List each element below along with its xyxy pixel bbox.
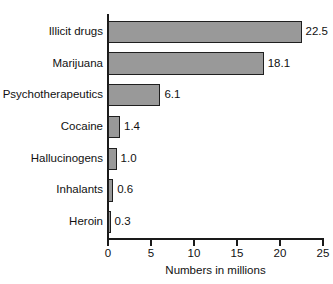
x-tick-label: 10 <box>188 248 201 260</box>
category-label: Hallucinogens <box>31 153 103 165</box>
bar-value-label: 0.3 <box>115 216 131 228</box>
x-tick-label: 5 <box>148 248 154 260</box>
x-tick-mark <box>150 240 152 246</box>
bar-row: 1.0 <box>108 148 323 170</box>
bar-value-label: 6.1 <box>164 90 180 102</box>
x-tick-label: 20 <box>274 248 287 260</box>
category-label: Inhalants <box>56 185 103 197</box>
bar-value-label: 22.5 <box>306 26 328 38</box>
bar-value-label: 1.4 <box>124 121 140 133</box>
bar <box>108 84 160 106</box>
bar-row: 18.1 <box>108 52 323 74</box>
bar-value-label: 18.1 <box>268 58 290 70</box>
bar-chart: Illicit drugsMarijuanaPsychotherapeutics… <box>0 0 333 284</box>
bar <box>108 148 117 170</box>
x-tick-label: 15 <box>231 248 244 260</box>
category-label: Psychotherapeutics <box>3 90 103 102</box>
bar <box>108 179 113 201</box>
bar-row: 0.6 <box>108 179 323 201</box>
bar <box>108 116 120 138</box>
category-label: Marijuana <box>53 58 104 70</box>
plot-area: 22.518.16.11.41.00.60.3 <box>108 16 323 238</box>
bar-row: 6.1 <box>108 84 323 106</box>
x-tick-mark <box>107 240 109 246</box>
x-tick-mark <box>279 240 281 246</box>
x-tick-mark <box>236 240 238 246</box>
bar <box>108 211 111 233</box>
category-axis-labels: Illicit drugsMarijuanaPsychotherapeutics… <box>0 16 103 238</box>
category-label: Illicit drugs <box>49 26 103 38</box>
bar-row: 22.5 <box>108 21 323 43</box>
category-label: Heroin <box>69 216 103 228</box>
x-axis-title: Numbers in millions <box>108 265 323 277</box>
bar <box>108 21 302 43</box>
bar-value-label: 1.0 <box>121 153 137 165</box>
category-label: Cocaine <box>61 121 103 133</box>
bar-row: 1.4 <box>108 116 323 138</box>
bar-row: 0.3 <box>108 211 323 233</box>
x-tick-label: 0 <box>105 248 111 260</box>
bar <box>108 52 264 74</box>
x-axis-line <box>107 238 324 240</box>
x-tick-mark <box>322 240 324 246</box>
x-tick-mark <box>193 240 195 246</box>
bar-value-label: 0.6 <box>117 185 133 197</box>
x-tick-label: 25 <box>317 248 330 260</box>
